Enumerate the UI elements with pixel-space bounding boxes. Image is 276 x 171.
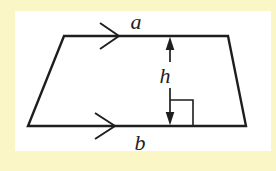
height-label: h (160, 63, 171, 88)
bottom-side-label: b (135, 130, 146, 155)
top-side-label: a (131, 9, 142, 34)
page: a h b (0, 0, 276, 171)
trapezoid-diagram: a h b (0, 0, 276, 171)
